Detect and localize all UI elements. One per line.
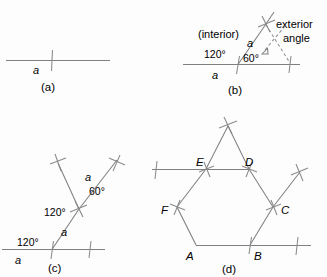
vertex-label-B: B: [254, 246, 262, 264]
panel-b-interior-note: (interior): [198, 24, 239, 42]
panel-a-caption: (a): [41, 77, 55, 95]
geometry-figure: a (a) (interior) 120° 60° exterior angle…: [0, 0, 327, 277]
panel-c-angle-top: 60°: [89, 181, 105, 199]
hexagon-side-CD: [249, 169, 273, 207]
panel-d-graphics: [152, 117, 311, 255]
panel-a-tick-mark: [52, 50, 53, 71]
panel-b-slant-side-label: a: [247, 33, 253, 51]
construction-line-E-apex: [206, 126, 228, 169]
panel-c-angle-mid: 120°: [44, 202, 66, 220]
panel-c-caption: (c): [48, 258, 61, 276]
hexagon-side-FA: [177, 207, 196, 245]
panel-c-lower-side-label: a: [61, 222, 67, 240]
vertex-label-D: D: [245, 152, 253, 170]
panel-b-exterior-note-line2: angle: [283, 28, 310, 46]
panel-b-base-side-label: a: [212, 65, 218, 83]
panel-a-segment-label: a: [33, 60, 39, 78]
panel-b-caption: (b): [228, 80, 242, 98]
panel-c-base-side-label: a: [15, 250, 21, 268]
hexagon-side-BC: [250, 207, 273, 245]
vertex-label-A: A: [186, 246, 194, 264]
hexagon-side-EF: [177, 169, 206, 207]
panel-c-left-arc-cross-2: [55, 154, 61, 171]
panel-d-caption: (d): [222, 259, 236, 277]
figure-canvas: [0, 0, 327, 277]
vertex-label-E: E: [196, 152, 204, 170]
panel-c-angle-bottom: 120°: [17, 232, 39, 250]
vertex-label-F: F: [161, 200, 168, 218]
vertex-label-C: C: [281, 200, 289, 218]
panel-b-interior-angle: 120°: [204, 44, 226, 62]
panel-a-graphics: [6, 50, 110, 71]
